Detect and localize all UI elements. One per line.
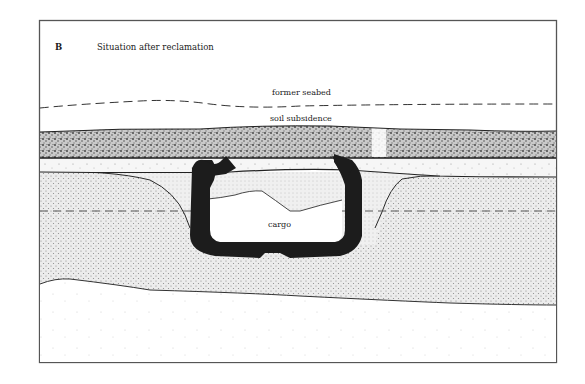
label-former-seabed: former seabed [272, 88, 331, 97]
label-cargo: cargo [268, 220, 291, 229]
figure-title: Situation after reclamation [97, 42, 214, 52]
diagram-canvas: B Situation after reclamation former sea… [0, 0, 585, 384]
label-soil-subsidence: soil subsidence [270, 114, 332, 123]
coarse-band-gap [372, 127, 386, 157]
panel-letter: B [55, 42, 62, 52]
